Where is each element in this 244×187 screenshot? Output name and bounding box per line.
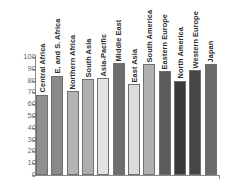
bar-category-label: Japan bbox=[207, 40, 214, 62]
bar-category-label: Central Africa bbox=[38, 44, 45, 93]
y-tick: 80 bbox=[0, 81, 36, 82]
y-tick: 20 bbox=[0, 151, 36, 152]
bar-group: Asia-Pacific bbox=[97, 55, 109, 175]
bar-group: East Asia bbox=[128, 55, 140, 175]
y-tick: 60 bbox=[0, 104, 36, 105]
y-tick: 10 bbox=[0, 163, 36, 164]
y-tick-label: 100 bbox=[14, 53, 36, 61]
y-tick: 50 bbox=[0, 116, 36, 117]
bar bbox=[82, 79, 94, 175]
bar bbox=[205, 64, 217, 175]
x-axis-end-cap bbox=[219, 175, 220, 179]
bar-category-label: North America bbox=[176, 27, 183, 78]
bar-group: Western Europe bbox=[189, 55, 201, 175]
bar bbox=[128, 84, 140, 175]
plot-area: 1009080706050403020100 Central AfricaE. … bbox=[0, 0, 244, 187]
bar-category-label: South Asia bbox=[84, 39, 91, 78]
bar bbox=[189, 70, 201, 175]
bar-chart: 1009080706050403020100 Central AfricaE. … bbox=[0, 0, 244, 187]
bar-category-label: Western Europe bbox=[192, 11, 199, 68]
bar bbox=[97, 78, 109, 175]
bar-group: South America bbox=[143, 55, 155, 175]
y-tick: 100 bbox=[0, 57, 36, 58]
bar bbox=[51, 76, 63, 175]
y-tick: 40 bbox=[0, 128, 36, 129]
x-axis-line bbox=[35, 175, 220, 176]
y-tick: 30 bbox=[0, 140, 36, 141]
bar-category-label: South America bbox=[146, 10, 153, 63]
bar bbox=[113, 63, 125, 175]
bar-category-label: E. and S. Africa bbox=[54, 19, 61, 74]
bar-group: Japan bbox=[205, 55, 217, 175]
bar bbox=[159, 71, 171, 175]
bar bbox=[67, 91, 79, 175]
y-tick-label: 20 bbox=[14, 147, 36, 155]
y-tick-label: 80 bbox=[14, 77, 36, 85]
bar bbox=[174, 81, 186, 175]
bar bbox=[36, 95, 48, 175]
y-tick-label: 90 bbox=[14, 65, 36, 73]
y-tick-label: 10 bbox=[14, 159, 36, 167]
bar-group: Central Africa bbox=[36, 55, 48, 175]
bar-group: Eastern Europe bbox=[159, 55, 171, 175]
bar-category-label: Asia-Pacific bbox=[100, 34, 107, 77]
y-tick-label: 30 bbox=[14, 136, 36, 144]
bar-category-label: Eastern Europe bbox=[161, 14, 168, 69]
y-tick: 90 bbox=[0, 69, 36, 70]
bar-group: South Asia bbox=[82, 55, 94, 175]
bar-category-label: Northern Africa bbox=[69, 35, 76, 90]
bar-group: E. and S. Africa bbox=[51, 55, 63, 175]
y-tick: 0 bbox=[0, 175, 36, 176]
y-tick-label: 0 bbox=[14, 171, 36, 179]
bar-group: Northern Africa bbox=[67, 55, 79, 175]
y-tick-label: 40 bbox=[14, 124, 36, 132]
bar-category-label: Middle East bbox=[115, 19, 122, 61]
bar-group: Middle East bbox=[113, 55, 125, 175]
y-tick: 70 bbox=[0, 92, 36, 93]
bar-series: Central AfricaE. and S. AfricaNorthern A… bbox=[36, 55, 220, 175]
y-tick-label: 50 bbox=[14, 112, 36, 120]
bar-group: North America bbox=[174, 55, 186, 175]
bar-category-label: East Asia bbox=[130, 49, 137, 82]
y-tick-label: 60 bbox=[14, 100, 36, 108]
y-tick-label: 70 bbox=[14, 88, 36, 96]
bar bbox=[143, 64, 155, 175]
